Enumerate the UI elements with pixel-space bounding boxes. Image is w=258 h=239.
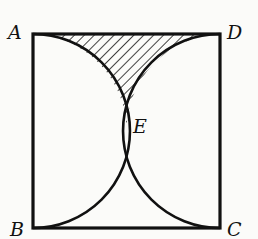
label-e: E <box>132 115 147 137</box>
label-c: C <box>227 218 242 239</box>
label-b: B <box>9 218 24 239</box>
label-d: D <box>226 21 242 43</box>
shaded-region <box>33 34 220 131</box>
geometry-figure: A D E B C <box>0 0 258 239</box>
label-a: A <box>6 21 22 43</box>
